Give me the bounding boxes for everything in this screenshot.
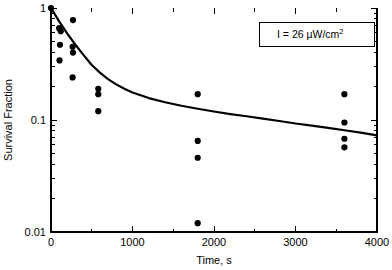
x-tick-label: 2000: [202, 236, 226, 248]
x-axis-tick-labels: 01000200030004000: [48, 236, 389, 248]
annotation-superscript: 2: [339, 27, 343, 36]
data-point: [70, 49, 76, 55]
data-point: [95, 86, 101, 92]
x-tick-label: 3000: [283, 236, 307, 248]
y-tick-label: 1: [40, 2, 46, 14]
x-tick-label: 0: [48, 236, 54, 248]
data-point: [195, 220, 201, 226]
data-point: [48, 5, 54, 11]
survival-fraction-plot: 01000200030004000 0.010.11 I = 26 µW/cm2…: [0, 0, 392, 270]
data-point: [70, 44, 76, 50]
legend-annotation: I = 26 µW/cm2: [259, 22, 374, 46]
data-point: [195, 91, 201, 97]
data-point: [195, 138, 201, 144]
data-point: [341, 136, 347, 142]
data-point: [56, 57, 62, 63]
y-tick-label: 0.01: [25, 226, 46, 238]
data-point: [95, 108, 101, 114]
y-tick-label: 0.1: [31, 114, 46, 126]
x-tick-label: 1000: [120, 236, 144, 248]
x-axis-title: Time, s: [196, 254, 232, 266]
y-axis-tick-labels: 0.010.11: [25, 2, 46, 238]
data-point: [195, 155, 201, 161]
chart-figure: 01000200030004000 0.010.11 I = 26 µW/cm2…: [0, 0, 392, 270]
data-point: [341, 144, 347, 150]
intensity-annotation-label: I = 26 µW/cm2: [277, 27, 344, 40]
x-tick-label: 4000: [365, 236, 389, 248]
y-axis-title: Survival Fraction: [2, 79, 14, 161]
data-point: [70, 17, 76, 23]
data-point: [70, 74, 76, 80]
data-point: [95, 91, 101, 97]
data-point: [341, 119, 347, 125]
data-point: [58, 28, 64, 34]
data-point: [341, 91, 347, 97]
data-point: [57, 42, 63, 48]
